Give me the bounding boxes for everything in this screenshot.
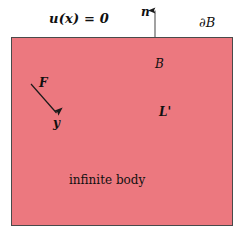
figure-root: u(x) = 0 n ∂B B L' F y infinite body: [0, 0, 246, 242]
point-symbol-label: y: [53, 117, 60, 129]
normal-vector-label: n: [141, 6, 150, 18]
infinite-body-region: [11, 37, 233, 226]
boundary-symbol-label: ∂B: [199, 16, 215, 29]
line-symbol-label: L': [159, 106, 171, 118]
boundary-condition-label: u(x) = 0: [49, 12, 109, 25]
body-symbol-label: B: [155, 58, 164, 70]
force-symbol-label: F: [39, 77, 48, 89]
region-caption-label: infinite body: [69, 174, 145, 186]
